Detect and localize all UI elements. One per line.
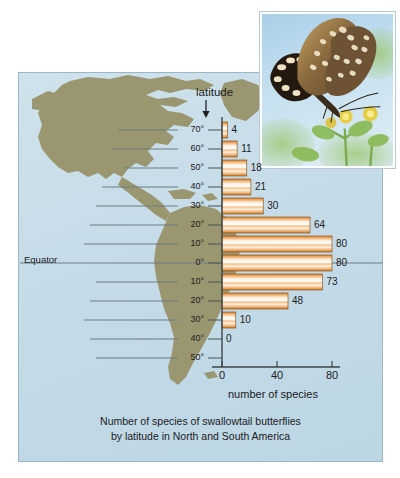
bar-value-label: 48 bbox=[292, 295, 303, 306]
latitude-tick-label: 20° bbox=[178, 295, 204, 305]
butterfly-photo-inset bbox=[259, 11, 396, 169]
x-axis-title: number of species bbox=[228, 388, 318, 400]
latitude-tick-label: 20° bbox=[178, 219, 204, 229]
caption-line-2: by latitude in North and South America bbox=[18, 429, 383, 444]
bar-value-label: 21 bbox=[255, 181, 266, 192]
latitude-tick-label: 60° bbox=[178, 143, 204, 153]
latitude-tick-label: 0° bbox=[178, 257, 204, 267]
x-axis-tick-label: 80 bbox=[320, 369, 344, 381]
butterfly-photo-image bbox=[262, 14, 393, 166]
caption-line-1: Number of species of swallowtail butterf… bbox=[18, 414, 383, 429]
latitude-tick-label: 30° bbox=[178, 200, 204, 210]
bar-value-label: 18 bbox=[251, 162, 262, 173]
bar-value-label: 64 bbox=[314, 219, 325, 230]
latitude-tick-label: 10° bbox=[178, 276, 204, 286]
figure-root: latitude Equator 70°60°50°40°30°20°10°0°… bbox=[0, 0, 400, 478]
latitude-tick-label: 30° bbox=[178, 314, 204, 324]
latitude-tick-label: 10° bbox=[178, 238, 204, 248]
latitude-tick-label: 40° bbox=[178, 333, 204, 343]
equator-label: Equator bbox=[24, 254, 57, 265]
figure-caption: Number of species of swallowtail butterf… bbox=[18, 414, 383, 444]
bar-value-label: 73 bbox=[326, 276, 337, 287]
latitude-tick-label: 50° bbox=[178, 352, 204, 362]
bar-value-label: 80 bbox=[336, 238, 347, 249]
latitude-axis-title: latitude bbox=[196, 86, 233, 98]
latitude-tick-label: 70° bbox=[178, 124, 204, 134]
bar-value-label: 0 bbox=[226, 333, 232, 344]
latitude-tick-label: 40° bbox=[178, 181, 204, 191]
bar-value-label: 11 bbox=[241, 143, 251, 154]
bar-value-label: 4 bbox=[232, 124, 238, 135]
bar-value-label: 80 bbox=[336, 257, 347, 268]
x-axis-tick-label: 40 bbox=[265, 369, 289, 381]
bar-value-label: 10 bbox=[240, 314, 251, 325]
x-axis-tick-label: 0 bbox=[210, 369, 234, 381]
bar-value-label: 30 bbox=[267, 200, 278, 211]
latitude-tick-label: 50° bbox=[178, 162, 204, 172]
